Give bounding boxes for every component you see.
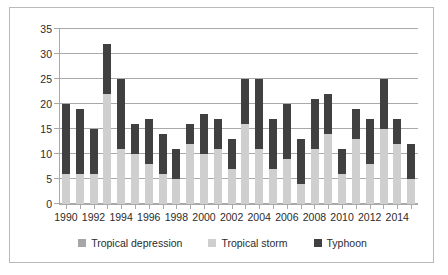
bar-segment-typhoon [407,144,415,179]
bar-segment-tropical-storm [62,174,70,204]
stacked-bar[interactable] [159,134,167,204]
stacked-bar[interactable] [214,119,222,204]
x-axis-tick [259,204,260,209]
stacked-bar[interactable] [311,99,319,204]
x-axis-tick [218,204,219,209]
y-axis-tick-label: 0 [46,198,52,210]
bar-segment-typhoon [186,124,194,144]
stacked-bar[interactable] [241,79,249,204]
x-axis-tick-label: 2002 [220,211,243,223]
bar-segment-tropical-storm [393,144,401,204]
x-axis-tick [245,204,246,209]
bar-segment-tropical-storm [311,149,319,204]
stacked-bar[interactable] [90,129,98,204]
stacked-bar[interactable] [283,104,291,204]
bar-segment-tropical-storm [269,169,277,204]
bar-segment-tropical-storm [380,129,388,204]
legend-item[interactable]: Tropical depression [78,237,182,249]
stacked-bar[interactable] [297,139,305,204]
stacked-bar[interactable] [352,109,360,204]
bar-series-container [59,29,418,204]
bar-segment-typhoon [311,99,319,149]
bar-segment-typhoon [352,109,360,139]
bar-slot [114,29,128,204]
x-axis-tick [287,204,288,209]
bar-segment-typhoon [366,119,374,164]
stacked-bar[interactable] [145,119,153,204]
legend-item[interactable]: Tropical storm [208,237,287,249]
bar-segment-typhoon [159,134,167,174]
legend-swatch-icon [314,239,322,247]
bar-slot [170,29,184,204]
bar-slot [211,29,225,204]
bar-segment-tropical-storm [297,184,305,204]
bar-segment-tropical-storm [214,149,222,204]
x-axis-tick-label: 2008 [303,211,326,223]
legend-label: Typhoon [327,237,367,249]
stacked-bar[interactable] [117,79,125,204]
bar-slot [59,29,73,204]
bar-segment-typhoon [200,114,208,154]
bar-slot [266,29,280,204]
y-axis-tick-label: 25 [40,73,52,85]
bar-segment-typhoon [145,119,153,164]
x-axis-tick [232,204,233,209]
bar-slot [156,29,170,204]
bar-segment-tropical-storm [117,149,125,204]
x-axis [59,204,418,210]
x-axis-tick [328,204,329,209]
x-axis-tick [273,204,274,209]
bar-slot [183,29,197,204]
legend-swatch-icon [208,239,216,247]
bar-slot [321,29,335,204]
stacked-bar[interactable] [269,119,277,204]
stacked-bar[interactable] [366,119,374,204]
bar-segment-typhoon [214,119,222,149]
x-axis-tick [121,204,122,209]
y-axis-tick-label: 5 [46,173,52,185]
bar-segment-tropical-storm [366,164,374,204]
x-axis-tick-label: 1992 [82,211,105,223]
stacked-bar[interactable] [186,124,194,204]
stacked-bar[interactable] [200,114,208,204]
x-axis-tick [176,204,177,209]
stacked-bar[interactable] [228,139,236,204]
stacked-bar[interactable] [103,44,111,204]
x-axis-tick-label: 1996 [137,211,160,223]
y-axis-tick-label: 35 [40,23,52,35]
x-axis-tick-label: 1994 [109,211,132,223]
y-axis-tick-label: 15 [40,123,52,135]
bar-segment-typhoon [103,44,111,94]
stacked-bar[interactable] [338,149,346,204]
stacked-bar[interactable] [76,109,84,204]
stacked-bar[interactable] [407,144,415,204]
stacked-bar[interactable] [255,79,263,204]
bar-slot [335,29,349,204]
stacked-bar[interactable] [131,124,139,204]
bar-slot [252,29,266,204]
bar-slot [308,29,322,204]
stacked-bar[interactable] [393,119,401,204]
x-axis-tick [301,204,302,209]
bar-slot [73,29,87,204]
stacked-bar[interactable] [62,104,70,204]
stacked-bar[interactable] [380,79,388,204]
bar-segment-typhoon [241,79,249,124]
stacked-bar[interactable] [324,94,332,204]
x-axis-tick-label: 1990 [54,211,77,223]
bar-segment-tropical-storm [186,144,194,204]
x-axis-tick [149,204,150,209]
bar-slot [142,29,156,204]
stacked-bar[interactable] [172,149,180,204]
chart-frame: 05101520253035 1990199219941996199820002… [9,7,434,263]
x-axis-labels: 1990199219941996199820002002200420062008… [59,211,418,227]
bar-slot [87,29,101,204]
bar-segment-typhoon [269,119,277,169]
x-axis-tick [397,204,398,209]
x-axis-tick [80,204,81,209]
x-axis-tick [190,204,191,209]
bar-segment-typhoon [297,139,305,184]
plot-area: 05101520253035 [59,29,418,204]
legend-item[interactable]: Typhoon [314,237,367,249]
bar-segment-tropical-storm [131,154,139,204]
